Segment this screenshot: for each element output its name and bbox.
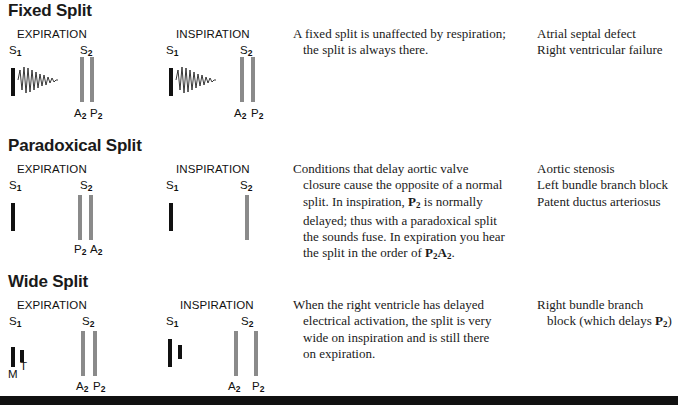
cause-item: Left bundle branch block: [537, 177, 668, 193]
cause-item: Right bundle branch: [537, 297, 672, 313]
section-title: Paradoxical Split: [8, 136, 142, 156]
phase-label-expiration: EXPIRATION: [17, 28, 87, 40]
phase-label-inspiration: INSPIRATION: [176, 28, 250, 40]
s2-label: S2: [240, 44, 252, 58]
section-title: Fixed Split: [8, 1, 92, 21]
a2-bar: [240, 57, 244, 102]
s1-bar: [169, 203, 173, 231]
p2-bar: [90, 57, 94, 102]
m1-bar: [11, 347, 15, 367]
causes-list: Aortic stenosis Left bundle branch block…: [537, 161, 668, 210]
a2-label: A2: [90, 243, 102, 257]
phase-label-inspiration: INSPIRATION: [176, 163, 250, 175]
cause-item: Right ventricular failure: [537, 42, 663, 58]
a2-label: A2: [76, 380, 88, 394]
p2-bar: [251, 57, 255, 102]
s1-label: S1: [166, 179, 178, 193]
a2-bar: [81, 331, 85, 376]
murmur-waveform-icon: [174, 62, 218, 98]
a2-label: A2: [74, 107, 86, 121]
p2-bar: [254, 331, 258, 376]
description: Conditions that delay aortic valve closu…: [293, 161, 505, 265]
p2-label: P2: [252, 380, 264, 394]
description: A fixed split is unaffected by respirati…: [293, 26, 506, 59]
phase-label-inspiration: INSPIRATION: [180, 299, 254, 311]
phase-label-expiration: EXPIRATION: [17, 163, 87, 175]
s1-bar: [11, 68, 15, 96]
s2-label: S2: [80, 44, 92, 58]
cause-item: Aortic stenosis: [537, 161, 668, 177]
s1-label: S1: [9, 44, 21, 58]
a2-bar: [89, 195, 93, 240]
cause-item: Atrial septal defect: [537, 26, 663, 42]
t1-bar: [178, 345, 182, 359]
a2-bar: [80, 57, 84, 102]
cause-item: block (which delays P2): [537, 313, 672, 332]
causes-list: Right bundle branch block (which delays …: [537, 297, 672, 333]
p2-label: P2: [93, 380, 105, 394]
causes-list: Atrial septal defect Right ventricular f…: [537, 26, 663, 59]
s1-bar: [169, 68, 173, 96]
m-label: M: [8, 368, 18, 380]
footer-divider-bar: [0, 396, 678, 405]
s1-label: S1: [9, 315, 21, 329]
t-label: T: [20, 360, 27, 372]
p2-label: P2: [251, 107, 263, 121]
p2-label: P2: [74, 243, 86, 257]
s2-label: S2: [240, 179, 252, 193]
cause-item: Patent ductus arteriosus: [537, 194, 668, 210]
a2-bar: [234, 331, 238, 376]
s2-label: S2: [241, 315, 253, 329]
p2-bar: [78, 195, 82, 240]
s1-label: S1: [9, 179, 21, 193]
phase-label-expiration: EXPIRATION: [17, 299, 87, 311]
m1-bar: [168, 339, 172, 367]
s1-label: S1: [166, 315, 178, 329]
a2-label: A2: [234, 107, 246, 121]
s2-fused-bar: [245, 195, 249, 240]
section-title: Wide Split: [8, 272, 88, 292]
s2-label: S2: [80, 179, 92, 193]
p2-label: P2: [90, 107, 102, 121]
s1-bar: [11, 203, 15, 231]
description: When the right ventricle has delayed ele…: [293, 297, 491, 362]
a2-label: A2: [228, 380, 240, 394]
murmur-waveform-icon: [16, 62, 60, 98]
s2-label: S2: [82, 315, 94, 329]
s1-label: S1: [166, 44, 178, 58]
p2-bar: [93, 331, 97, 376]
